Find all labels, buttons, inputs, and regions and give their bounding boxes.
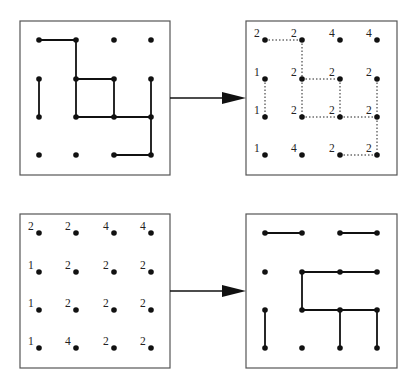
vertex-label: 2: [366, 66, 372, 78]
grid-vertex: [262, 269, 268, 275]
vertex-label: 2: [28, 220, 34, 232]
panel-bottom-left: 2244122212221422: [20, 214, 170, 368]
grid-vertex: [36, 230, 42, 236]
grid-vertex: [262, 230, 268, 236]
grid-vertex: [73, 269, 79, 275]
vertex-label: 1: [28, 335, 34, 347]
grid-vertex: [374, 269, 380, 275]
grid-vertex: [73, 307, 79, 313]
grid-vertex: [337, 230, 343, 236]
grid-vertex: [299, 230, 305, 236]
vertex-label: 2: [291, 104, 297, 116]
vertex-label: 2: [140, 297, 146, 309]
panel-top-right: 2244122212221422: [246, 21, 397, 175]
grid-vertex: [148, 76, 154, 82]
bottom-arrow: [170, 285, 246, 297]
grid-vertex: [374, 345, 380, 351]
grid-vertex: [148, 230, 154, 236]
grid-vertex: [36, 345, 42, 351]
vertex-label: 2: [254, 27, 260, 39]
vertex-label: 4: [140, 220, 146, 232]
grid-vertex: [36, 76, 42, 82]
grid-vertex: [262, 37, 268, 43]
grid-vertex: [337, 76, 343, 82]
vertex-label: 2: [366, 142, 372, 154]
vertex-label: 2: [103, 259, 109, 271]
vertex-label: 1: [254, 104, 260, 116]
vertex-label: 1: [254, 66, 260, 78]
grid-vertex: [148, 37, 154, 43]
vertex-label: 2: [140, 259, 146, 271]
vertex-label: 2: [140, 335, 146, 347]
grid-vertex: [374, 114, 380, 120]
grid-vertex: [36, 307, 42, 313]
panel-frame: [246, 21, 397, 175]
grid-vertex: [36, 152, 42, 158]
grid-vertex: [111, 76, 117, 82]
grid-vertex: [374, 152, 380, 158]
panel-top-left: [20, 21, 170, 175]
grid-vertex: [73, 114, 79, 120]
grid-vertex: [374, 37, 380, 43]
grid-vertex: [262, 114, 268, 120]
grid-vertex: [73, 152, 79, 158]
grid-vertex: [337, 307, 343, 313]
grid-vertex: [148, 269, 154, 275]
vertex-label: 1: [28, 297, 34, 309]
grid-vertex: [36, 269, 42, 275]
grid-vertex: [73, 345, 79, 351]
grid-vertex: [111, 37, 117, 43]
grid-vertex: [374, 76, 380, 82]
graph-transformation-diagram: 22441222122214222244122212221422: [0, 0, 420, 388]
grid-vertex: [111, 114, 117, 120]
grid-vertex: [262, 152, 268, 158]
grid-vertex: [299, 37, 305, 43]
vertex-label: 2: [291, 27, 297, 39]
grid-vertex: [299, 307, 305, 313]
grid-vertex: [337, 345, 343, 351]
grid-vertex: [148, 345, 154, 351]
grid-vertex: [111, 307, 117, 313]
grid-vertex: [337, 269, 343, 275]
vertex-label: 2: [65, 297, 71, 309]
top-arrow: [170, 92, 246, 104]
grid-vertex: [299, 152, 305, 158]
grid-vertex: [73, 37, 79, 43]
vertex-label: 4: [103, 220, 109, 232]
vertex-label: 1: [254, 142, 260, 154]
panel-frame: [20, 214, 170, 368]
grid-vertex: [374, 230, 380, 236]
panel-bottom-right: [246, 214, 397, 368]
arrow-head-icon: [222, 285, 246, 297]
grid-vertex: [337, 114, 343, 120]
vertex-label: 2: [103, 297, 109, 309]
vertex-label: 4: [366, 27, 372, 39]
vertex-label: 2: [291, 66, 297, 78]
arrow-head-icon: [222, 92, 246, 104]
vertex-label: 2: [366, 104, 372, 116]
grid-vertex: [148, 307, 154, 313]
grid-vertex: [262, 345, 268, 351]
grid-vertex: [337, 152, 343, 158]
grid-vertex: [299, 76, 305, 82]
grid-vertex: [111, 152, 117, 158]
grid-vertex: [111, 345, 117, 351]
grid-vertex: [262, 76, 268, 82]
vertex-label: 1: [28, 259, 34, 271]
panel-frame: [20, 21, 170, 175]
grid-vertex: [262, 307, 268, 313]
vertex-label: 4: [65, 335, 71, 347]
grid-vertex: [73, 230, 79, 236]
vertex-label: 2: [329, 142, 335, 154]
grid-vertex: [111, 230, 117, 236]
vertex-label: 4: [329, 27, 335, 39]
grid-vertex: [299, 269, 305, 275]
grid-vertex: [374, 307, 380, 313]
vertex-label: 2: [329, 104, 335, 116]
vertex-label: 2: [103, 335, 109, 347]
vertex-label: 2: [65, 259, 71, 271]
vertex-label: 2: [65, 220, 71, 232]
grid-vertex: [299, 345, 305, 351]
grid-vertex: [148, 114, 154, 120]
grid-vertex: [111, 269, 117, 275]
